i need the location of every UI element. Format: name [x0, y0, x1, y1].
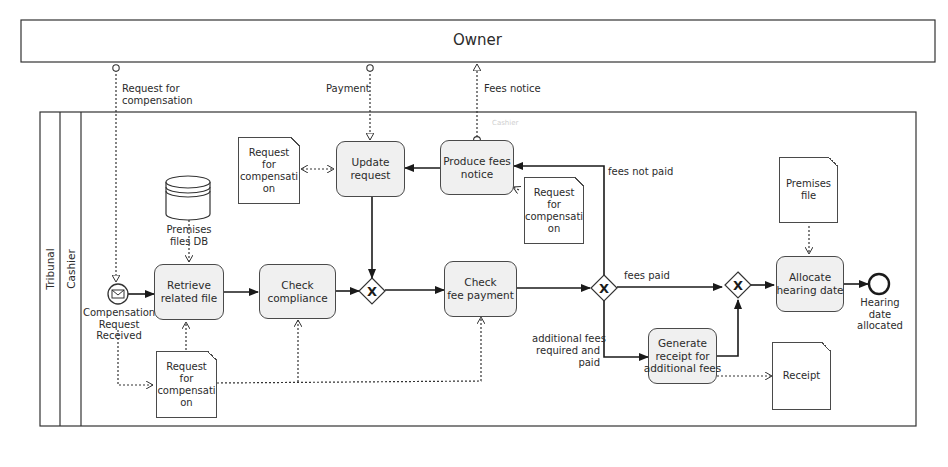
message-request-for-compensation: Request for compensation: [122, 83, 193, 107]
bpmn-diagram: X X X Owner Tribunal Cashier Cashier Req…: [0, 0, 948, 467]
start-event-label: Compensation Request Received: [83, 307, 155, 342]
cashier-lane-label: Cashier: [65, 241, 77, 297]
task-check-compliance[interactable]: Check compliance: [259, 264, 336, 319]
tribunal-pool-label: Tribunal: [44, 241, 56, 297]
db-label: Premises files DB: [160, 224, 218, 247]
task-retrieve-related-file[interactable]: Retrieve related file: [154, 264, 224, 320]
cashier-faint-label: Cashier: [492, 119, 518, 127]
message-payment: Payment: [326, 83, 370, 95]
task-allocate-hearing-date[interactable]: Allocate hearing date: [776, 256, 844, 312]
data-request-compensation-mid[interactable]: Request for compensati on: [524, 177, 584, 244]
task-check-fee-payment[interactable]: Check fee payment: [444, 261, 517, 317]
label-fees-paid: fees paid: [624, 270, 670, 282]
data-receipt[interactable]: Receipt: [772, 342, 831, 410]
label-fees-not-paid: fees not paid: [608, 166, 673, 178]
svg-text:X: X: [599, 281, 609, 296]
end-event-label: Hearing date allocated: [852, 297, 908, 332]
data-request-compensation-bottom[interactable]: Request for compensati on: [156, 351, 217, 418]
data-premises-file[interactable]: Premises file: [779, 157, 838, 223]
end-event[interactable]: [869, 274, 889, 294]
task-produce-fees-notice[interactable]: Produce fees notice: [440, 140, 514, 195]
task-generate-receipt[interactable]: Generate receipt for additional fees: [648, 328, 717, 384]
task-update-request[interactable]: Update request: [336, 141, 405, 197]
svg-text:X: X: [733, 278, 743, 293]
owner-pool-title: Owner: [453, 31, 502, 49]
label-additional-fees: additional fees required and paid: [532, 333, 600, 369]
premises-files-db[interactable]: [166, 176, 210, 220]
message-fees-notice: Fees notice: [484, 83, 541, 95]
data-request-compensation-top[interactable]: Request for compensati on: [238, 137, 300, 204]
svg-text:X: X: [367, 284, 377, 299]
